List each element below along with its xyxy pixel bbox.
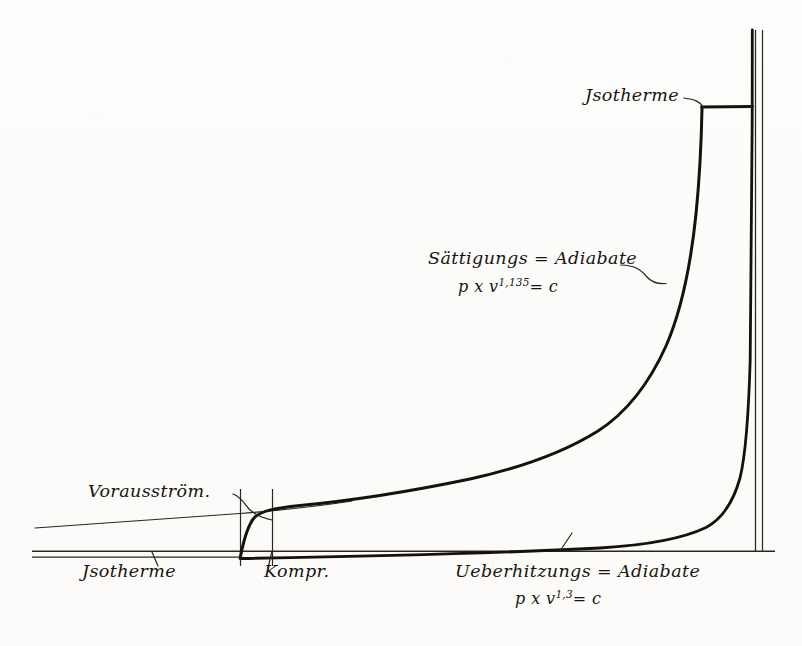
label-saettigungs-formula: p x v1,135= c xyxy=(458,277,558,296)
leader-vorausstroem xyxy=(233,494,272,520)
curve-isotherme-top xyxy=(702,107,753,108)
label-ueberhitzungs-formula: p x v1,3= c xyxy=(515,589,601,608)
pv-diagram-plot xyxy=(0,0,802,646)
label-isotherme-bottom: Jsotherme xyxy=(82,562,176,580)
label-ueberhitzungs-adiabate: Ueberhitzungs = Adiabate xyxy=(455,562,700,580)
saettigungs-formula-exponent: 1,135 xyxy=(498,276,529,288)
ueberhitzungs-formula-base: p x v xyxy=(515,589,555,608)
diagram-page: Jsotherme Sättigungs = Adiabate p x v1,1… xyxy=(0,0,802,646)
label-kompr: Kompr. xyxy=(264,562,329,580)
leader-isotherme-top xyxy=(684,98,703,107)
label-isotherme-top: Jsotherme xyxy=(585,86,679,104)
saettigungs-formula-base: p x v xyxy=(458,277,498,296)
label-saettigungs-adiabate: Sättigungs = Adiabate xyxy=(428,249,637,267)
ueberhitzungs-formula-exponent: 1,3 xyxy=(555,588,572,600)
saettigungs-formula-tail: = c xyxy=(530,277,559,296)
label-vorausstroem: Vorausström. xyxy=(88,482,211,500)
curve-saettigungs-adiabate xyxy=(241,109,703,557)
ueberhitzungs-formula-tail: = c xyxy=(573,589,602,608)
